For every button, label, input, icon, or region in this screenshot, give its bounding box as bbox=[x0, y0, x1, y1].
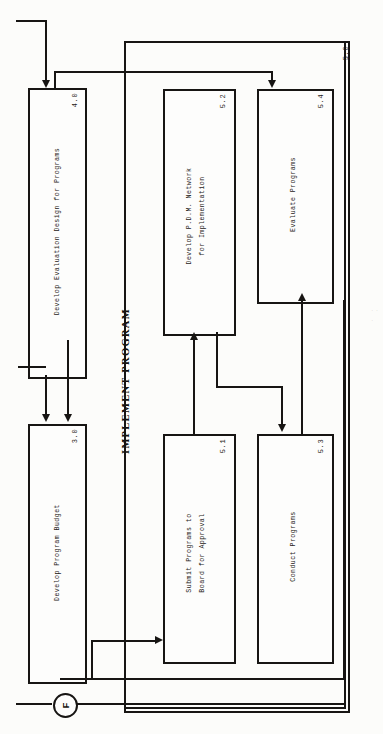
edge-5-2-to-5-3-a bbox=[216, 332, 218, 387]
connector-node-f[interactable]: F bbox=[53, 693, 78, 718]
box-5-3-number: 5.3 bbox=[315, 434, 325, 458]
edge-group-return-top bbox=[124, 41, 346, 43]
edge-feedback-right bbox=[77, 703, 345, 705]
connector-node-label: F bbox=[55, 695, 76, 716]
box-3-0-number: 3.0 bbox=[69, 424, 79, 448]
box-5-3-label: Conduct Programs bbox=[288, 481, 301, 613]
arrowhead-into-box-5-4-top bbox=[268, 80, 276, 88]
edge-5-4-out-foot bbox=[60, 678, 345, 680]
flowchart-canvas: IMPLEMENT PROGRAM 5.0 Develop Evaluation… bbox=[0, 0, 383, 734]
box-5-1-label: Submit Programs to Board for Approval bbox=[184, 473, 210, 633]
edge-5-3-to-5-4 bbox=[301, 300, 303, 435]
box-3-0-label: Develop Program Budget bbox=[52, 470, 65, 636]
edge-into-3-0-b-h bbox=[18, 366, 46, 368]
arrowhead-into-box-4-0 bbox=[42, 80, 50, 88]
edge-eval-feedback-v bbox=[54, 71, 56, 90]
edge-feedback-left bbox=[16, 703, 52, 705]
box-4-0-number: 4.0 bbox=[69, 88, 79, 112]
arrowhead-into-box-3-0-a bbox=[42, 414, 50, 422]
group-title-label: IMPLEMENT PROGRAM bbox=[116, 314, 130, 454]
edge-into-3-0-a bbox=[45, 375, 47, 416]
page-edge-artifact: · · · bbox=[371, 306, 381, 496]
arrowhead-into-box-5-3 bbox=[278, 424, 286, 432]
box-5-4-number: 5.4 bbox=[315, 89, 325, 113]
box-5-1-number: 5.1 bbox=[217, 434, 227, 458]
edge-inbound-top-drop bbox=[45, 20, 47, 82]
edge-eval-feedback-h bbox=[54, 71, 273, 73]
edge-group-return-right bbox=[344, 41, 346, 709]
edge-5-2-to-5-3-c bbox=[281, 386, 283, 426]
arrowhead-into-box-5-4 bbox=[298, 293, 306, 301]
box-5-2-number: 5.2 bbox=[217, 89, 227, 113]
edge-inbound-top bbox=[16, 20, 47, 22]
edge-5-2-to-5-3-b bbox=[216, 386, 283, 388]
edge-5-1-to-5-2 bbox=[193, 340, 195, 435]
box-4-0-label: Develop Evaluation Design for Programs bbox=[52, 112, 65, 352]
edge-budget-riser bbox=[91, 640, 93, 680]
arrowhead-into-box-5-2 bbox=[190, 332, 198, 340]
arrowhead-into-box-5-1 bbox=[155, 636, 163, 644]
edge-group-return-left bbox=[124, 41, 126, 709]
edge-into-3-0-b-drop bbox=[67, 340, 69, 416]
box-5-4-label: Evaluate Programs bbox=[288, 127, 301, 263]
box-5-2-label: Develop P.D.M. Network for Implementatio… bbox=[184, 133, 210, 299]
edge-group-return-bottom bbox=[124, 707, 346, 709]
arrowhead-into-box-3-0-b bbox=[64, 414, 72, 422]
